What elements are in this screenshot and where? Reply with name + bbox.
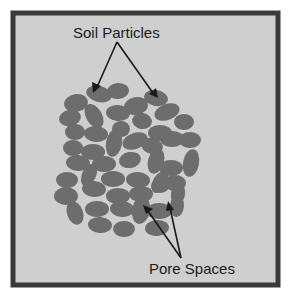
soil-particle bbox=[56, 172, 78, 188]
soil-particle bbox=[174, 114, 194, 130]
soil-particle bbox=[113, 221, 135, 237]
soil-diagram: Soil Particles Pore Spaces bbox=[0, 0, 288, 298]
pore-spaces-label: Pore Spaces bbox=[149, 260, 235, 277]
soil-particle bbox=[85, 201, 109, 217]
soil-particle bbox=[151, 179, 169, 193]
soil-particles-label: Soil Particles bbox=[73, 24, 160, 41]
soil-particle bbox=[101, 171, 125, 187]
soil-particle bbox=[65, 124, 85, 140]
soil-particle bbox=[179, 132, 201, 148]
soil-particle bbox=[63, 140, 83, 156]
